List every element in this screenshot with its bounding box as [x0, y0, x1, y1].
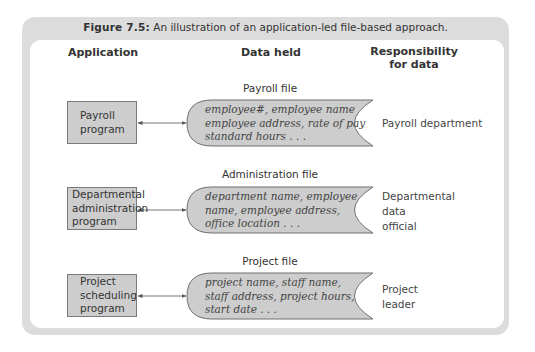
file-data-line: staff address, project hours,	[205, 290, 355, 304]
responsibility-line: Payroll department	[382, 116, 482, 131]
project-scheduling-program-box: Project scheduling program	[67, 274, 137, 317]
app-label-line: Payroll	[80, 109, 125, 123]
project-file-label: Project file	[220, 255, 320, 267]
project-file-contents: project name, staff name, staff address,…	[205, 276, 355, 317]
file-data-line: start date . . .	[205, 303, 355, 317]
administration-file-label: Administration file	[220, 168, 320, 180]
payroll-program-box: Payroll program	[67, 101, 137, 144]
responsibility-line: official	[382, 219, 455, 234]
responsibility-line: data	[382, 204, 455, 219]
payroll-file-label: Payroll file	[220, 82, 320, 94]
payroll-file-contents: employee#, employee name employee addres…	[205, 103, 365, 144]
file-data-line: department name, employee	[205, 190, 357, 204]
responsibility-line: Departmental	[382, 189, 455, 204]
file-data-line: employee address, rate of pay	[205, 117, 365, 131]
app-label-line: Project	[80, 275, 137, 289]
payroll-responsibility: Payroll department	[382, 116, 482, 131]
app-label-line: program	[72, 215, 148, 229]
project-responsibility: Project leader	[382, 282, 418, 312]
administration-file-contents: department name, employee name, employee…	[205, 190, 357, 231]
app-label-line: scheduling	[80, 289, 137, 303]
file-data-line: office location . . .	[205, 217, 357, 231]
responsibility-line: Project	[382, 282, 418, 297]
file-data-line: project name, staff name,	[205, 276, 355, 290]
app-label-line: administration	[72, 202, 148, 216]
administration-responsibility: Departmental data official	[382, 189, 455, 234]
file-data-line: name, employee address,	[205, 204, 357, 218]
app-label-line: program	[80, 302, 137, 316]
file-data-line: employee#, employee name	[205, 103, 365, 117]
responsibility-line: leader	[382, 297, 418, 312]
app-label-line: program	[80, 123, 125, 137]
departmental-administration-program-box: Departmental administration program	[67, 187, 137, 230]
app-label-line: Departmental	[72, 188, 148, 202]
file-data-line: standard hours . . .	[205, 130, 365, 144]
